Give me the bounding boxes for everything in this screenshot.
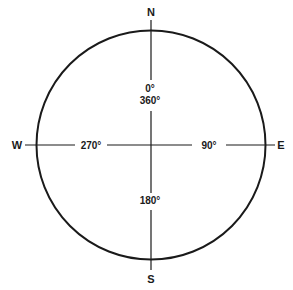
south-label: S xyxy=(147,273,154,285)
degree-label-90: 90° xyxy=(201,140,216,151)
west-label: W xyxy=(12,139,23,151)
degree-label-180: 180° xyxy=(140,195,161,206)
east-label: E xyxy=(277,139,284,151)
degree-label-360: 360° xyxy=(140,95,161,106)
degree-label-270: 270° xyxy=(81,140,102,151)
degree-label-0: 0° xyxy=(145,83,155,94)
north-label: N xyxy=(147,6,155,18)
compass-diagram: N S W E 0° 360° 270° 90° 180° xyxy=(0,0,293,290)
